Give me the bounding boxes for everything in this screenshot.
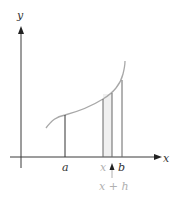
x-axis-arrow-icon — [154, 154, 162, 160]
strip-shade — [103, 94, 112, 157]
tick-label-x: x — [100, 161, 107, 174]
tick-label-x-plus-h: x + h — [99, 180, 129, 193]
tick-label-a: a — [62, 161, 69, 174]
y-axis-label: y — [16, 9, 24, 22]
function-curve — [46, 61, 125, 128]
tick-label-b: b — [118, 161, 125, 174]
integral-diagram: y x a x b x + h — [0, 0, 174, 201]
y-axis-arrow-icon — [18, 26, 24, 34]
x-axis-label: x — [163, 152, 170, 165]
pointer-arrow-icon — [110, 163, 115, 170]
